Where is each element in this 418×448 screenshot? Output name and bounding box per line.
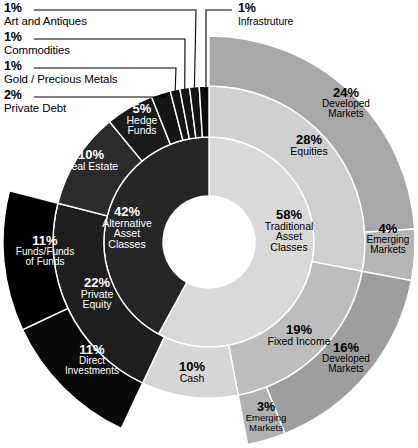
eq-emerging-pct: 4%: [358, 224, 418, 235]
segment-label-alternative-asset-classes: 42% Alternative Asset Classes: [79, 207, 175, 249]
eq-emerging-line2: Markets: [358, 245, 418, 256]
callout-gold-name: Gold / Precious Metals: [4, 73, 118, 86]
eq-developed-line2: Markets: [308, 109, 384, 120]
callout-private-debt-name: Private Debt: [4, 102, 66, 115]
equities-name: Equities: [274, 146, 344, 157]
segment-label-private-equity: 22% Private Equity: [61, 278, 133, 310]
cash-name: Cash: [161, 373, 223, 384]
callout-commodities-name: Commodities: [4, 44, 70, 57]
callout-art-pct: 1%: [4, 2, 87, 15]
callout-commodities-pct: 1%: [4, 31, 70, 44]
real-estate-pct: 10%: [48, 150, 134, 161]
traditional-pct: 58%: [243, 210, 335, 221]
callout-private-debt: 2% Private Debt: [4, 89, 66, 115]
segment-label-fixed-income-emerging-markets: 3% Emerging Markets: [235, 402, 297, 434]
segment-label-traditional-asset-classes: 58% Traditional Asset Classes: [243, 210, 335, 252]
segment-label-funds-of-funds: 11% Funds/Funds of Funds: [2, 236, 88, 268]
direct-investments-pct: 11%: [44, 345, 140, 356]
fi-emerging-pct: 3%: [235, 402, 297, 413]
private-equity-line2: Equity: [61, 299, 133, 310]
alternative-pct: 42%: [79, 207, 175, 218]
cash-pct: 10%: [161, 362, 223, 373]
callout-infrastructure-name: Infrastruture: [238, 15, 293, 28]
segment-label-equities: 28% Equities: [274, 135, 344, 156]
callout-art-and-antiques: 1% Art and Antiques: [4, 2, 87, 28]
alternative-line2: Asset: [79, 228, 175, 239]
fixed-income-pct: 19%: [255, 325, 343, 336]
callout-gold-pct: 1%: [4, 60, 118, 73]
fi-developed-pct: 16%: [307, 343, 385, 354]
segment-label-equities-developed-markets: 24% Developed Markets: [308, 88, 384, 120]
callout-infrastructure: 1% Infrastruture: [238, 2, 293, 28]
sunburst-chart: 1% Art and Antiques 1% Commodities 1% Go…: [0, 0, 418, 448]
fi-developed-line2: Markets: [307, 364, 385, 375]
segment-label-fixed-income-developed-markets: 16% Developed Markets: [307, 343, 385, 375]
private-equity-pct: 22%: [61, 278, 133, 289]
fi-emerging-line2: Markets: [235, 423, 297, 434]
hedge-funds-pct: 5%: [114, 104, 170, 115]
equities-pct: 28%: [274, 135, 344, 146]
funds-of-funds-line2: of Funds: [2, 257, 88, 268]
real-estate-name: Real Estate: [48, 161, 134, 172]
callout-private-debt-pct: 2%: [4, 89, 66, 102]
segment-label-equities-emerging-markets: 4% Emerging Markets: [358, 224, 418, 256]
traditional-line3: Classes: [243, 242, 335, 253]
hedge-funds-line2: Funds: [114, 125, 170, 136]
traditional-line2: Asset: [243, 231, 335, 242]
callout-infrastructure-pct: 1%: [238, 2, 293, 15]
alternative-line3: Classes: [79, 239, 175, 250]
funds-of-funds-pct: 11%: [2, 236, 88, 247]
eq-developed-pct: 24%: [308, 88, 384, 99]
callout-gold-precious-metals: 1% Gold / Precious Metals: [4, 60, 118, 86]
callout-commodities: 1% Commodities: [4, 31, 70, 57]
callout-art-name: Art and Antiques: [4, 15, 87, 28]
segment-label-direct-investments: 11% Direct Investments: [44, 345, 140, 377]
segment-label-real-estate: 10% Real Estate: [48, 150, 134, 171]
direct-investments-line2: Investments: [44, 366, 140, 377]
segment-label-cash: 10% Cash: [161, 362, 223, 383]
segment-label-hedge-funds: 5% Hedge Funds: [114, 104, 170, 136]
